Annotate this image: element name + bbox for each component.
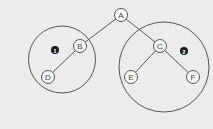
node-c: C (154, 40, 167, 53)
edge-a-b (80, 15, 121, 46)
node-a-label: A (118, 11, 124, 20)
tree-diagram: A B C D E F 1 2 (0, 0, 213, 129)
group-1-badge: 1 (51, 46, 59, 54)
group-1-circle (29, 26, 96, 93)
node-e: E (125, 71, 138, 84)
node-d-label: D (45, 73, 51, 82)
node-e-label: E (128, 73, 133, 82)
node-b-label: B (77, 42, 82, 51)
node-a: A (115, 9, 128, 22)
node-f-label: F (191, 73, 196, 82)
node-f: F (187, 71, 200, 84)
group-2-circle (119, 22, 209, 112)
node-b: B (74, 40, 87, 53)
node-c-label: C (157, 42, 163, 51)
group-2-badge: 2 (180, 47, 188, 55)
node-d: D (42, 71, 55, 84)
